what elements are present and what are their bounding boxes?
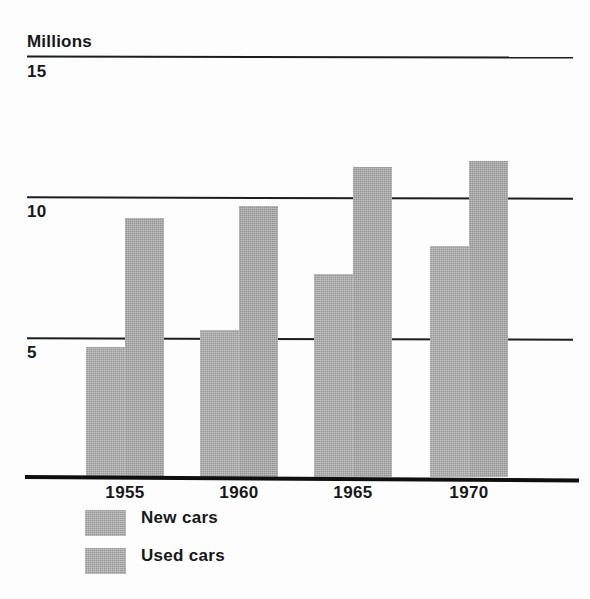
bar-1960-new-cars [200,330,239,477]
x-tick-label-1965: 1965 [314,483,392,503]
bar-1955-used-cars [125,218,164,477]
bar-1955-new-cars [86,347,125,477]
legend-swatch-used-cars [85,548,126,574]
bar-1970-used-cars [469,161,508,477]
legend-label-new-cars: New cars [141,508,218,528]
legend-label-used-cars: Used cars [141,546,225,566]
chart-legend: New cars Used cars [85,508,385,584]
bar-1970-new-cars [430,246,469,477]
x-tick-label-1960: 1960 [200,483,278,503]
legend-item-new-cars: New cars [85,508,385,546]
legend-swatch-new-cars [85,510,126,536]
bar-1965-new-cars [314,274,353,477]
legend-item-used-cars: Used cars [85,546,385,584]
bar-1965-used-cars [353,167,392,477]
bar-chart: Millions 15 10 5 1955 1960 1965 1970 New… [0,0,590,599]
x-tick-label-1955: 1955 [86,483,164,503]
x-tick-label-1970: 1970 [430,483,508,503]
bar-1960-used-cars [239,206,278,477]
